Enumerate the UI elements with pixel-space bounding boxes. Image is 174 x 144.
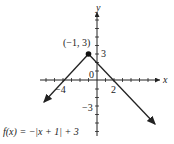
x-axis [40,78,160,82]
vertex-point [86,51,92,57]
vertex-label: (−1, 3) [63,38,90,48]
x-tick-label-2: 2 [111,85,116,95]
graph-plot [0,0,174,144]
x-tick-label-neg4: −4 [55,85,66,95]
y-axis [95,12,99,136]
y-tick-label-neg3: −3 [82,103,93,113]
y-axis-label: y [96,3,100,13]
y-tick-label-3: 3 [101,49,106,59]
x-axis-label: x [163,75,167,85]
function-label: f(x) = −|x + 1| + 3 [3,127,79,137]
origin-label: 0 [89,70,94,80]
